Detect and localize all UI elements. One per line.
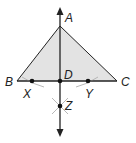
arrow-up-icon	[57, 7, 64, 15]
label-c: C	[121, 75, 130, 89]
label-x: X	[22, 87, 32, 101]
point-y	[86, 79, 91, 84]
point-x	[30, 79, 35, 84]
label-y: Y	[85, 87, 94, 101]
label-d: D	[64, 68, 73, 82]
label-a: A	[64, 11, 73, 25]
geometry-diagram: A B C D X Y Z	[0, 0, 136, 143]
point-d	[58, 79, 63, 84]
label-z: Z	[64, 99, 73, 113]
point-z	[58, 104, 63, 109]
label-b: B	[5, 75, 13, 89]
arrow-down-icon	[57, 129, 64, 137]
